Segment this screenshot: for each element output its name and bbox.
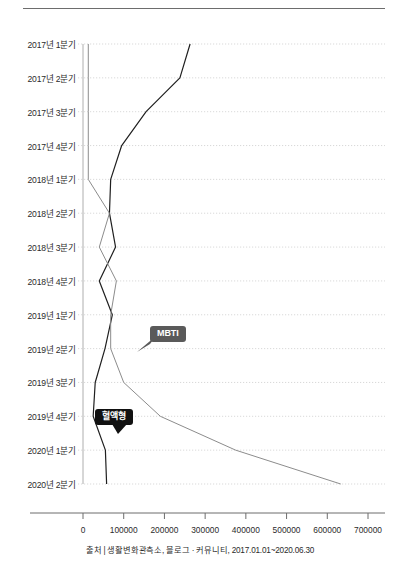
x-axis-tick-label: 100000 — [110, 525, 138, 535]
x-axis-ticks — [83, 513, 368, 519]
x-axis-tick-label: 500000 — [273, 525, 301, 535]
source-caption: 출처 | 생활변화관측소, 블로그 · 커뮤니티, 2017.01.01~202… — [0, 543, 400, 555]
x-axis-tick-label: 700000 — [354, 525, 382, 535]
x-axis-tick-label: 300000 — [191, 525, 219, 535]
x-axis-tick-label: 400000 — [232, 525, 260, 535]
x-axis-tick-label: 200000 — [150, 525, 178, 535]
x-axis-tick-label: 600000 — [313, 525, 341, 535]
callout-blood: 혈액형 — [95, 409, 133, 425]
callout-mbti: MBTI — [150, 326, 186, 342]
x-axis-tick-label: 0 — [81, 525, 86, 535]
line-chart — [0, 0, 400, 581]
